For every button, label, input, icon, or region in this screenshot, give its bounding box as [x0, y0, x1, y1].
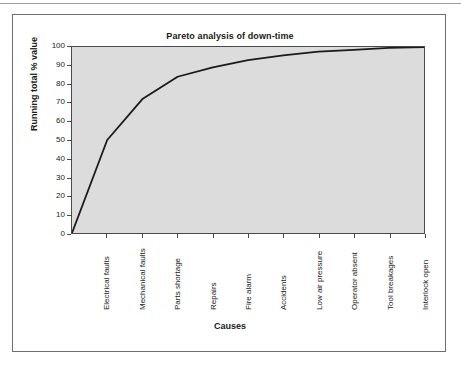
- x-axis-category-label: Operator absent: [351, 252, 359, 310]
- x-axis-tick-mark: [106, 234, 107, 238]
- x-axis-category-label: Low air pressure: [316, 251, 324, 310]
- x-axis-tick-mark: [319, 234, 320, 238]
- x-axis-category-label: Interlock open: [422, 260, 430, 310]
- y-axis-tick-mark: [67, 234, 71, 235]
- y-axis-tick-label: 10: [41, 211, 65, 219]
- y-axis-tick-label: 20: [41, 192, 65, 200]
- x-axis-category-label: Mechanical faults: [139, 248, 147, 310]
- y-axis-tick-label: 40: [41, 155, 65, 163]
- x-axis-category-label: Electrical faults: [103, 256, 111, 310]
- x-axis-category-label: Accidents: [280, 275, 288, 310]
- x-axis-category-label: Tool breakages: [387, 256, 395, 310]
- x-axis-tick-mark: [248, 234, 249, 238]
- y-axis-tick-label: 90: [41, 61, 65, 69]
- figure-frame: Pareto analysis of down-time Running tot…: [12, 14, 446, 352]
- plot-area: [71, 46, 425, 234]
- x-axis-tick-mark: [354, 234, 355, 238]
- y-axis-tick-label: 0: [41, 230, 65, 238]
- y-axis-tick-label: 100: [41, 42, 65, 50]
- x-axis-category-label: Repairs: [210, 282, 218, 310]
- chart-page: Pareto analysis of down-time Running tot…: [0, 0, 461, 366]
- x-axis-title: Causes: [13, 321, 447, 331]
- y-axis-tick-label: 50: [41, 136, 65, 144]
- x-axis-category-label: Parts shortage: [174, 258, 182, 310]
- x-axis-tick-mark: [213, 234, 214, 238]
- x-axis-tick-mark: [390, 234, 391, 238]
- pareto-cumulative-line: [72, 47, 424, 233]
- x-axis-tick-mark: [283, 234, 284, 238]
- y-axis-title: Running total % value: [29, 19, 39, 149]
- chart-title: Pareto analysis of down-time: [13, 31, 447, 41]
- x-axis-tick-mark: [177, 234, 178, 238]
- pareto-curve: [72, 47, 424, 233]
- y-axis-tick-label: 60: [41, 117, 65, 125]
- x-axis-category-label: Fire alarm: [245, 274, 253, 310]
- y-axis-tick-label: 30: [41, 174, 65, 182]
- y-axis-tick-label: 70: [41, 98, 65, 106]
- page-top-rule: [0, 3, 461, 4]
- x-axis-tick-mark: [425, 234, 426, 238]
- y-axis-tick-label: 80: [41, 80, 65, 88]
- x-axis-tick-mark: [142, 234, 143, 238]
